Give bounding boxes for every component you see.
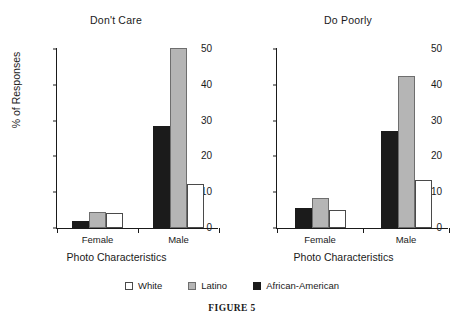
- y-axis-label-left: % of Responses: [10, 52, 22, 128]
- legend-swatch-icon-black: [253, 282, 261, 290]
- legend-label: White: [138, 280, 162, 291]
- x-tick-left-2: [219, 228, 220, 233]
- legend-item-white: White: [125, 280, 162, 291]
- y-tick-label-left-0: 0: [206, 223, 212, 233]
- y-tick-left-50: [53, 49, 57, 50]
- y-tick-left-40: [53, 84, 57, 85]
- x-group-label-right-male: Male: [396, 234, 417, 245]
- bar-right-female-white: [329, 210, 346, 228]
- y-tick-right-40: [273, 84, 277, 85]
- legend-item-african-american: African-American: [253, 280, 339, 291]
- bar-left-male-white: [187, 184, 204, 228]
- chart-panels: Don't Care % of Responses 01020304050 Ph…: [0, 0, 464, 272]
- legend-label: African-American: [266, 280, 339, 291]
- x-axis-line-right: [276, 228, 448, 229]
- y-tick-label-left-40: 40: [201, 80, 212, 90]
- y-axis-line-right: [276, 48, 277, 229]
- y-tick-right-30: [273, 120, 277, 121]
- y-tick-right-10: [273, 192, 277, 193]
- plot-area-left: 01020304050: [57, 49, 219, 228]
- y-tick-label-left-20: 20: [201, 151, 212, 161]
- x-tick-right-2: [449, 228, 450, 233]
- chart-title-left: Don't Care: [0, 14, 232, 26]
- y-tick-label-left-50: 50: [201, 44, 212, 54]
- chart-legend: WhiteLatinoAfrican-American: [0, 280, 464, 291]
- x-tick-right-1: [363, 228, 364, 233]
- bar-right-female-gray: [312, 198, 329, 228]
- figure-caption: FIGURE 5: [0, 303, 464, 313]
- plot-area-right: 01020304050: [277, 49, 449, 228]
- bar-left-female-white: [106, 213, 123, 228]
- y-tick-label-right-30: 30: [431, 116, 442, 126]
- x-group-label-right-female: Female: [304, 234, 336, 245]
- bar-left-female-black: [72, 221, 89, 228]
- y-tick-label-left-30: 30: [201, 116, 212, 126]
- figure-5: Don't Care % of Responses 01020304050 Ph…: [0, 0, 464, 324]
- y-tick-left-30: [53, 120, 57, 121]
- bar-right-female-black: [295, 208, 312, 228]
- y-tick-right-50: [273, 49, 277, 50]
- x-group-label-left-female: Female: [82, 234, 114, 245]
- x-tick-right-0: [277, 228, 278, 233]
- bar-right-male-black: [381, 131, 398, 228]
- y-tick-left-10: [53, 192, 57, 193]
- x-group-label-left-male: Male: [168, 234, 189, 245]
- x-tick-left-1: [138, 228, 139, 233]
- chart-title-right: Do Poorly: [232, 14, 464, 26]
- legend-swatch-icon-gray: [188, 282, 196, 290]
- y-tick-label-right-20: 20: [431, 151, 442, 161]
- bar-right-male-gray: [398, 76, 415, 228]
- bar-right-male-white: [415, 180, 432, 228]
- x-axis-label-right: Photo Characteristics: [236, 251, 451, 263]
- legend-label: Latino: [201, 280, 227, 291]
- chart-panel-do-poorly: Do Poorly 01020304050 Photo Characterist…: [232, 0, 464, 272]
- y-tick-label-right-40: 40: [431, 80, 442, 90]
- y-tick-label-right-0: 0: [436, 223, 442, 233]
- y-tick-label-right-10: 10: [431, 187, 442, 197]
- y-tick-label-right-50: 50: [431, 44, 442, 54]
- legend-swatch-icon-white: [125, 282, 133, 290]
- chart-panel-dont-care: Don't Care % of Responses 01020304050 Ph…: [0, 0, 232, 272]
- bar-left-male-gray: [170, 48, 187, 228]
- legend-item-latino: Latino: [188, 280, 227, 291]
- y-axis-line-left: [56, 48, 57, 229]
- y-tick-right-20: [273, 156, 277, 157]
- x-tick-left-0: [57, 228, 58, 233]
- x-axis-label-left: Photo Characteristics: [14, 251, 219, 263]
- bar-left-male-black: [153, 126, 170, 228]
- bar-left-female-gray: [89, 212, 106, 228]
- x-axis-line-left: [56, 228, 218, 229]
- y-tick-left-20: [53, 156, 57, 157]
